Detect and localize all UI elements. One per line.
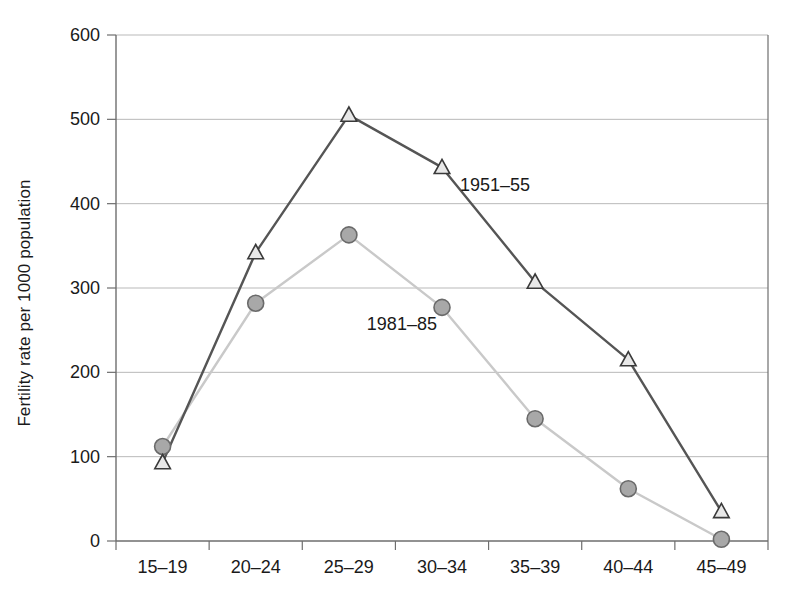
chart-figure: Fertility rate per 1000 population 01002… (0, 0, 791, 606)
data-point-marker-triangle (714, 503, 730, 517)
y-axis-tick-label: 0 (90, 531, 100, 551)
x-axis-tick-label: 30–34 (417, 557, 467, 577)
data-point-marker-circle (620, 481, 636, 497)
data-point-marker-circle (248, 295, 264, 311)
data-point-marker-circle (341, 227, 357, 243)
x-axis-tick-label: 40–44 (603, 557, 653, 577)
data-point-marker-triangle (434, 159, 450, 173)
y-axis-tick-label: 200 (70, 362, 100, 382)
series-annotation-label-1: 1951–55 (460, 175, 530, 195)
x-axis-tick-label: 45–49 (696, 557, 746, 577)
data-point-marker-circle (434, 299, 450, 315)
data-point-marker-triangle (341, 107, 357, 121)
x-axis-tick-label: 20–24 (231, 557, 281, 577)
series-annotation-label-2: 1981–85 (367, 314, 437, 334)
y-axis-tick-label: 100 (70, 447, 100, 467)
y-axis-tick-label: 300 (70, 278, 100, 298)
data-point-marker-circle (155, 439, 171, 455)
y-axis-tick-label: 500 (70, 109, 100, 129)
x-axis-tick-label: 25–29 (324, 557, 374, 577)
y-axis-tick-label: 600 (70, 25, 100, 45)
x-axis-tick-label: 15–19 (138, 557, 188, 577)
series-line-2 (163, 235, 722, 539)
data-point-marker-circle (527, 411, 543, 427)
data-point-marker-circle (713, 531, 729, 547)
y-axis-tick-label: 400 (70, 194, 100, 214)
chart-plot-area: 010020030040050060015–1920–2425–2930–343… (0, 0, 791, 606)
x-axis-tick-label: 35–39 (510, 557, 560, 577)
